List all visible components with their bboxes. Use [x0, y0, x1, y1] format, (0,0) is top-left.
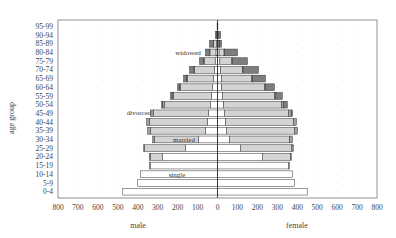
grid-dot	[317, 165, 318, 166]
grid-dot	[297, 43, 298, 44]
bar-male-single	[209, 110, 218, 117]
grid-dot	[297, 26, 298, 27]
bar-male-single	[214, 75, 218, 82]
y-tick-label: 20-24	[36, 152, 54, 161]
grid-dot	[317, 156, 318, 157]
grid-dot	[137, 52, 138, 53]
grid-dot	[237, 43, 238, 44]
grid-dot	[117, 35, 118, 36]
annotation-widowed: widowed	[175, 49, 201, 57]
x-tick-label: 200	[252, 203, 264, 212]
bar-male-married	[150, 119, 208, 126]
bar-female-widowed	[252, 75, 265, 82]
grid-dot	[357, 130, 358, 131]
bar-male-divorced	[148, 127, 151, 134]
grid-dot	[97, 148, 98, 149]
bar-female-divorced	[290, 153, 291, 160]
y-tick-label: 45-49	[36, 109, 54, 118]
grid-dot	[117, 156, 118, 157]
bar-female-single	[218, 171, 293, 178]
grid-dot	[297, 96, 298, 97]
grid-dot	[137, 174, 138, 175]
grid-dot	[177, 69, 178, 70]
bar-male-single	[213, 84, 218, 91]
grid-dot	[277, 69, 278, 70]
grid-dot	[357, 69, 358, 70]
grid-dot	[77, 122, 78, 123]
bar-female-single	[218, 180, 295, 187]
bar-male-single	[186, 145, 218, 152]
grid-dot	[357, 87, 358, 88]
y-tick-labels: 0-45-910-1415-1920-2425-2930-3435-3940-4…	[36, 22, 54, 196]
grid-dot	[337, 43, 338, 44]
bar-male-married	[151, 127, 206, 134]
grid-dot	[177, 61, 178, 62]
grid-dot	[77, 113, 78, 114]
bar-male-married	[145, 145, 186, 152]
x-label-female: female	[286, 221, 308, 230]
grid-dot	[297, 104, 298, 105]
x-tick-label: 700	[72, 203, 84, 212]
bar-female-married	[229, 136, 289, 143]
bar-female-married	[224, 110, 288, 117]
grid-dot	[337, 69, 338, 70]
bar-male-single	[208, 119, 218, 126]
x-tick-label: 200	[172, 203, 184, 212]
bar-female-divorced	[294, 127, 297, 134]
bar-female-single	[218, 84, 222, 91]
bar-female-widowed	[291, 110, 292, 117]
grid-dot	[117, 113, 118, 114]
grid-dot	[77, 104, 78, 105]
grid-dot	[137, 165, 138, 166]
grid-dot	[297, 61, 298, 62]
grid-dot	[237, 26, 238, 27]
bar-male-married	[214, 40, 217, 47]
grid-dot	[97, 26, 98, 27]
bar-female-single	[218, 136, 230, 143]
bar-male-single	[138, 180, 218, 187]
grid-dot	[97, 43, 98, 44]
grid-dot	[97, 165, 98, 166]
grid-dot	[277, 78, 278, 79]
grid-dot	[77, 78, 78, 79]
bar-female-single	[218, 93, 223, 100]
grid-dot	[97, 122, 98, 123]
y-tick-label: 90-94	[36, 31, 54, 40]
grid-dot	[297, 78, 298, 79]
grid-dot	[157, 52, 158, 53]
grid-dot	[297, 174, 298, 175]
x-tick-label: 600	[332, 203, 344, 212]
grid-dot	[257, 52, 258, 53]
grid-dot	[97, 69, 98, 70]
y-tick-label: 80-84	[36, 48, 54, 57]
grid-dot	[357, 52, 358, 53]
grid-dot	[77, 148, 78, 149]
grid-dot	[357, 122, 358, 123]
y-tick-label: 65-69	[36, 74, 54, 83]
grid-dot	[97, 96, 98, 97]
grid-dot	[317, 78, 318, 79]
grid-dot	[137, 69, 138, 70]
grid-dot	[77, 139, 78, 140]
grid-dot	[97, 183, 98, 184]
bar-female-married	[221, 84, 264, 91]
x-tick-label: 600	[92, 203, 104, 212]
grid-dot	[317, 104, 318, 105]
bar-male-single	[211, 101, 218, 108]
y-tick-label: 15-19	[36, 161, 54, 170]
bar-female-divorced	[289, 136, 292, 143]
grid-dot	[97, 113, 98, 114]
x-tick-label: 100	[232, 203, 244, 212]
bar-female-widowed	[232, 58, 247, 65]
x-tick-label: 700	[351, 203, 363, 212]
x-tick-label: 500	[112, 203, 124, 212]
grid-dot	[337, 183, 338, 184]
grid-dot	[117, 174, 118, 175]
grid-dot	[337, 96, 338, 97]
grid-dot	[317, 139, 318, 140]
bar-male-single	[215, 66, 218, 73]
population-pyramid-chart: 0-45-910-1415-1920-2425-2930-3435-3940-4…	[0, 0, 396, 238]
grid-dot	[157, 87, 158, 88]
grid-dot	[257, 26, 258, 27]
grid-dot	[297, 165, 298, 166]
